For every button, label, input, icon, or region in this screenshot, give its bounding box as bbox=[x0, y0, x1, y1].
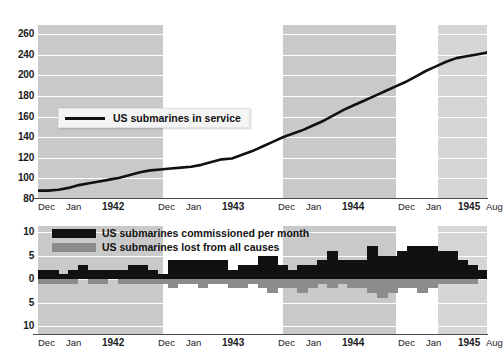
y-tick-label: 120 bbox=[0, 153, 34, 163]
line-chart-axis-line bbox=[33, 198, 488, 199]
bar-lost bbox=[367, 279, 378, 293]
bar-chart-axis-line bbox=[33, 334, 488, 335]
bar-lost bbox=[407, 279, 418, 288]
x-tick-label: Jan bbox=[306, 336, 321, 350]
y-tick-label: 140 bbox=[0, 132, 34, 142]
bar-commissioned bbox=[357, 260, 368, 279]
bar-commissioned bbox=[477, 270, 487, 279]
bar-commissioned bbox=[327, 251, 338, 279]
bar-commissioned bbox=[148, 270, 159, 279]
bar-lost bbox=[437, 279, 448, 284]
bar-chart-panel: 1050510 US submarines commissioned per m… bbox=[0, 222, 495, 361]
gridline bbox=[38, 326, 487, 327]
x-tick-label: Jan bbox=[66, 336, 81, 350]
x-tick-label: 1942 bbox=[102, 200, 124, 214]
bar-lost bbox=[68, 279, 79, 284]
bar-lost bbox=[128, 279, 139, 284]
y-tick-label: 200 bbox=[0, 70, 34, 80]
bar-commissioned bbox=[258, 256, 269, 280]
x-tick-label: 1944 bbox=[342, 200, 364, 214]
bar-commissioned bbox=[198, 260, 209, 279]
bar-commissioned bbox=[188, 260, 199, 279]
y-tick-label: 240 bbox=[0, 50, 34, 60]
gridline bbox=[38, 303, 487, 304]
bar-commissioned bbox=[218, 260, 229, 279]
bar-lost bbox=[218, 279, 229, 284]
commissioned-swatch-icon bbox=[52, 229, 96, 238]
line-legend-swatch-icon bbox=[65, 117, 105, 120]
bar-lost bbox=[38, 279, 49, 284]
x-tick-label: 1945 bbox=[458, 336, 480, 350]
legend-row-commissioned: US submarines commissioned per month bbox=[52, 227, 309, 239]
bar-lost bbox=[178, 279, 189, 284]
bar-lost bbox=[347, 279, 358, 288]
bar-commissioned bbox=[138, 265, 149, 279]
x-tick-label: 1943 bbox=[222, 200, 244, 214]
x-tick-label: Aug bbox=[486, 200, 503, 214]
bar-commissioned bbox=[78, 265, 89, 279]
bar-lost bbox=[327, 279, 338, 288]
y-tick-label: 180 bbox=[0, 91, 34, 101]
bar-commissioned bbox=[228, 270, 239, 279]
x-tick-label: Dec bbox=[398, 336, 415, 350]
bar-commissioned bbox=[377, 256, 388, 280]
x-tick-label: Dec bbox=[158, 200, 175, 214]
line-chart-x-axis: DecJan1942DecJan1943DecJan1944DecJan1945… bbox=[38, 200, 487, 214]
x-tick-label: Dec bbox=[38, 336, 55, 350]
bar-commissioned bbox=[98, 270, 109, 279]
bar-lost bbox=[48, 279, 59, 284]
bar-lost bbox=[188, 279, 199, 284]
bar-commissioned bbox=[267, 256, 278, 280]
x-tick-label: Jan bbox=[66, 200, 81, 214]
bar-commissioned bbox=[287, 270, 298, 279]
bar-lost bbox=[168, 279, 179, 288]
x-tick-label: Aug bbox=[486, 336, 503, 350]
bar-commissioned bbox=[68, 270, 79, 279]
bar-commissioned bbox=[387, 256, 398, 280]
y-tick-label: 5 bbox=[0, 251, 34, 261]
x-tick-label: Dec bbox=[278, 336, 295, 350]
bar-lost bbox=[118, 279, 129, 284]
bar-commissioned bbox=[317, 260, 328, 279]
bar-commissioned bbox=[238, 265, 249, 279]
bar-commissioned bbox=[307, 265, 318, 279]
bar-lost bbox=[387, 279, 398, 293]
bar-commissioned bbox=[297, 265, 308, 279]
bar-commissioned bbox=[447, 251, 458, 279]
y-tick-label: 260 bbox=[0, 29, 34, 39]
bar-chart-legend: US submarines commissioned per month US … bbox=[52, 227, 309, 255]
bar-commissioned bbox=[248, 265, 259, 279]
bar-commissioned bbox=[337, 260, 348, 279]
bar-lost bbox=[317, 279, 328, 284]
bar-commissioned bbox=[277, 265, 288, 279]
x-tick-label: Jan bbox=[306, 200, 321, 214]
y-tick-label: 10 bbox=[0, 321, 34, 331]
bar-commissioned bbox=[178, 260, 189, 279]
bar-lost bbox=[248, 279, 259, 284]
x-tick-label: 1945 bbox=[458, 200, 480, 214]
y-tick-label: 5 bbox=[0, 298, 34, 308]
bar-commissioned bbox=[367, 246, 378, 279]
bar-lost bbox=[417, 279, 428, 293]
lost-legend-label: US submarines lost from all causes bbox=[102, 241, 279, 253]
bar-lost bbox=[158, 279, 169, 284]
x-tick-label: Jan bbox=[186, 336, 201, 350]
bar-commissioned bbox=[457, 260, 468, 279]
bar-lost bbox=[148, 279, 159, 284]
bar-commissioned bbox=[38, 270, 49, 279]
y-tick-label: 80 bbox=[0, 194, 34, 204]
bar-lost bbox=[258, 279, 269, 288]
bar-commissioned bbox=[427, 246, 438, 279]
bar-commissioned bbox=[407, 246, 418, 279]
bar-lost bbox=[377, 279, 388, 298]
bar-lost bbox=[238, 279, 249, 288]
bar-lost bbox=[228, 279, 239, 288]
bar-lost bbox=[287, 279, 298, 288]
line-chart-panel: 26024020018016014012010080 US submarines… bbox=[0, 0, 495, 216]
bar-commissioned bbox=[128, 265, 139, 279]
bar-lost bbox=[427, 279, 438, 288]
x-tick-label: Dec bbox=[158, 336, 175, 350]
commissioned-legend-label: US submarines commissioned per month bbox=[102, 227, 309, 239]
y-tick-label: 100 bbox=[0, 173, 34, 183]
